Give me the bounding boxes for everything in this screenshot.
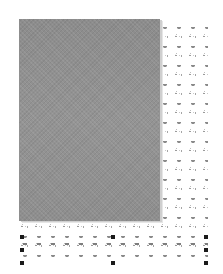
resize-handle-middle-right[interactable] xyxy=(204,248,208,252)
resize-handle-bottom-center[interactable] xyxy=(111,261,115,265)
resize-handle-top-right[interactable] xyxy=(204,235,208,239)
resize-handle-middle-left[interactable] xyxy=(20,248,24,252)
design-canvas[interactable] xyxy=(0,0,223,274)
resize-handle-bottom-left[interactable] xyxy=(20,261,24,265)
selected-pattern-strip[interactable] xyxy=(18,240,208,248)
resize-handle-top-center[interactable] xyxy=(111,235,115,239)
gray-image-block[interactable] xyxy=(19,19,160,221)
resize-handle-top-left[interactable] xyxy=(20,235,24,239)
resize-handle-bottom-right[interactable] xyxy=(204,261,208,265)
